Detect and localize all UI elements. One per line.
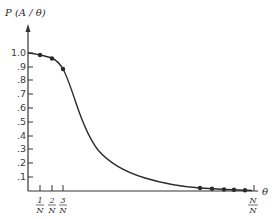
data-point (198, 186, 202, 190)
y-tick-label: .2 (17, 157, 26, 168)
data-points (38, 53, 247, 193)
probability-curve (28, 53, 252, 191)
x-tick-numerator: 1 (37, 196, 42, 205)
chart: P (A / θ) .1 .2 .3 .4 .5 .6 .7 .8 .9 1.0… (0, 0, 279, 219)
y-axis-arrow-icon (26, 24, 31, 32)
x-tick-denominator: N (249, 206, 258, 215)
x-tick-denominator: N (59, 206, 68, 215)
y-tick-label: .4 (17, 130, 26, 141)
y-tick-label: .3 (17, 143, 26, 154)
data-point (61, 67, 65, 71)
y-tick-label: .8 (17, 74, 26, 85)
y-tick-label: .6 (17, 102, 26, 113)
data-point (232, 188, 236, 192)
data-point (210, 187, 214, 191)
data-point (243, 188, 247, 192)
y-tick-label: 1.0 (11, 47, 26, 58)
x-tick-numerator: N (249, 196, 258, 205)
data-point (50, 56, 54, 60)
y-tick-label: .5 (17, 116, 26, 127)
y-tick-label: .9 (17, 61, 26, 72)
x-ticks (40, 185, 254, 191)
y-axis-title: P (A / θ) (4, 7, 46, 18)
x-tick-numerator: 3 (60, 196, 65, 205)
x-tick-denominator: N (48, 206, 57, 215)
x-tick-denominator: N (36, 206, 45, 215)
x-axis-symbol: θ (262, 186, 268, 197)
x-tick-labels: 1 N 2 N 3 N N N (36, 196, 259, 215)
data-point (38, 53, 42, 57)
x-tick-numerator: 2 (48, 196, 54, 205)
data-point (222, 187, 226, 191)
y-ticks (28, 53, 33, 177)
y-tick-labels: .1 .2 .3 .4 .5 .6 .7 .8 .9 1.0 (11, 47, 26, 182)
y-tick-label: .1 (17, 171, 26, 182)
y-tick-label: .7 (17, 88, 26, 99)
